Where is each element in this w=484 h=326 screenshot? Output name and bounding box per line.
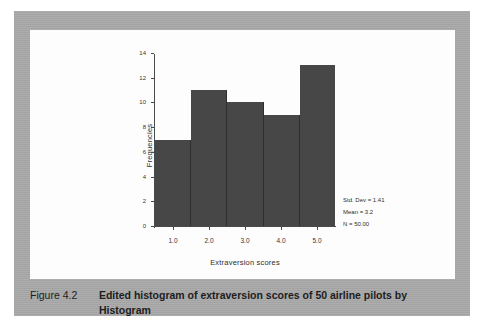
x-tick-label-3: 3.0: [240, 238, 249, 245]
y-tick-label-12: 12: [139, 75, 146, 81]
y-axis-title: Frequencies: [145, 124, 154, 167]
y-tick-8: 8: [151, 127, 154, 128]
y-tick-label-2: 2: [143, 198, 146, 204]
figure-panel: Frequencies 0 2 4 6 8: [30, 30, 455, 279]
bar-group: [155, 53, 335, 226]
histogram-chart: Frequencies 0 2 4 6 8: [30, 30, 455, 279]
bar-1: [155, 140, 191, 227]
y-tick-12: 12: [151, 78, 154, 79]
y-tick-label-0: 0: [143, 223, 146, 229]
figure-caption: Figure 4.2 Edited histogram of extravers…: [30, 288, 460, 318]
x-tick-3: 3.0: [245, 227, 246, 230]
bar-2: [191, 90, 227, 226]
y-tick-4: 4: [151, 177, 154, 178]
x-tick-label-4: 4.0: [276, 238, 285, 245]
y-tick-label-6: 6: [143, 149, 146, 155]
stat-mean: Mean = 3.2: [343, 209, 385, 215]
figure-caption-label: Figure 4.2: [30, 288, 96, 303]
y-tick-label-4: 4: [143, 174, 146, 180]
figure-caption-text: Edited histogram of extraversion scores …: [99, 288, 449, 318]
x-tick-1: 1.0: [173, 227, 174, 230]
y-tick-label-10: 10: [139, 99, 146, 105]
x-tick-label-5: 5.0: [312, 238, 321, 245]
plot-area: 0 2 4 6 8 10 12: [154, 54, 334, 227]
y-tick-2: 2: [151, 201, 154, 202]
x-tick-label-2: 2.0: [204, 238, 213, 245]
x-tick-2: 2.0: [209, 227, 210, 230]
y-tick-label-14: 14: [139, 50, 146, 56]
y-tick-0: 0: [151, 226, 154, 227]
x-tick-label-1: 1.0: [168, 238, 177, 245]
y-tick-14: 14: [151, 53, 154, 54]
book-page: Frequencies 0 2 4 6 8: [0, 0, 484, 326]
bar-3: [227, 102, 263, 226]
stat-n: N = 50.00: [343, 221, 385, 227]
y-tick-label-8: 8: [143, 124, 146, 130]
y-tick-10: 10: [151, 102, 154, 103]
x-tick-5: 5.0: [317, 227, 318, 230]
stat-std-dev: Std. Dev = 1.41: [343, 197, 385, 203]
statistics-annotation: Std. Dev = 1.41 Mean = 3.2 N = 50.00: [343, 197, 385, 227]
x-axis-title: Extraversion scores: [154, 258, 336, 267]
bar-5: [300, 65, 335, 226]
bar-4: [264, 115, 300, 226]
x-tick-4: 4.0: [281, 227, 282, 230]
y-tick-6: 6: [151, 152, 154, 153]
